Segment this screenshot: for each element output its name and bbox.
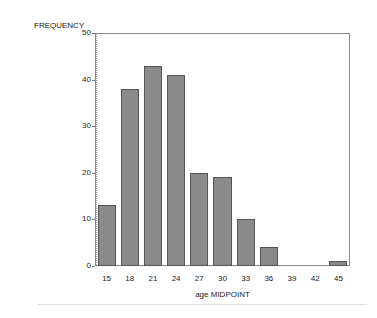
bar-27 xyxy=(190,173,208,266)
x-tick-label: 33 xyxy=(234,274,258,283)
y-tick-label: 20 xyxy=(71,168,91,177)
y-tick-mark xyxy=(92,80,95,81)
x-tick-label: 27 xyxy=(187,274,211,283)
x-tick-label: 45 xyxy=(326,274,350,283)
x-tick-label: 39 xyxy=(280,274,304,283)
y-tick-mark xyxy=(92,266,95,267)
bar-36 xyxy=(260,247,278,266)
y-tick-label: 10 xyxy=(71,214,91,223)
y-tick-label: 40 xyxy=(71,75,91,84)
x-tick-label: 15 xyxy=(95,274,119,283)
y-tick-mark xyxy=(92,219,95,220)
y-tick-mark xyxy=(92,173,95,174)
bar-24 xyxy=(167,75,185,266)
y-tick-label: 0 xyxy=(71,261,91,270)
divider xyxy=(38,304,367,305)
bar-33 xyxy=(237,219,255,266)
x-axis-title: age MIDPOINT xyxy=(95,290,350,299)
bar-21 xyxy=(144,66,162,266)
x-tick-label: 30 xyxy=(211,274,235,283)
bar-18 xyxy=(121,89,139,266)
x-tick-label: 42 xyxy=(303,274,327,283)
bar-45 xyxy=(329,261,347,266)
y-tick-mark xyxy=(92,126,95,127)
y-tick-label: 30 xyxy=(71,121,91,130)
x-tick-label: 24 xyxy=(164,274,188,283)
x-tick-label: 36 xyxy=(257,274,281,283)
x-tick-label: 21 xyxy=(141,274,165,283)
bar-30 xyxy=(213,177,231,266)
x-tick-label: 18 xyxy=(118,274,142,283)
y-tick-mark xyxy=(92,33,95,34)
bar-15 xyxy=(98,205,116,266)
y-tick-label: 50 xyxy=(71,28,91,37)
